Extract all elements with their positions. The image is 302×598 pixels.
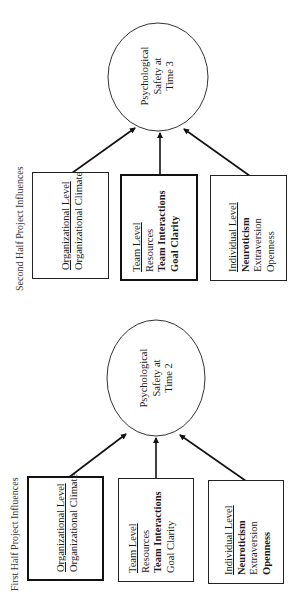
outcome-line: Psychological: [138, 343, 151, 413]
factor-text-team-second-half: Team Level Resources Team Interactions G…: [131, 190, 181, 272]
factor-item: Team Interactions: [152, 491, 165, 573]
factor-item: Resources: [140, 491, 153, 573]
outcome-line: Time 3: [164, 41, 177, 111]
outcome-label-time-2: Psychological Safety at Time 2: [138, 343, 176, 413]
factor-text-individual-first-half: Individual Level Neuroticism Extraversio…: [223, 505, 273, 575]
level-heading: Organizational Level: [55, 474, 68, 572]
factor-item: Extraversion: [248, 505, 261, 575]
factor-item: Extraversion: [252, 202, 265, 272]
outcome-line: Safety at: [152, 41, 165, 111]
level-heading: Team Level: [127, 491, 140, 573]
outcome-label-time-3: Psychological Safety at Time 3: [139, 41, 177, 111]
arrow-org-to-time2: [68, 434, 126, 478]
factor-item: Team Interactions: [156, 190, 169, 272]
factor-item: Openness: [261, 505, 274, 575]
factor-text-team-first-half: Team Level Resources Team Interactions G…: [127, 491, 177, 573]
factor-item: Neuroticism: [236, 505, 249, 575]
factor-item: Neuroticism: [240, 202, 253, 272]
factor-item: Openness: [265, 202, 278, 272]
factor-item: Goal Clarity: [169, 190, 182, 272]
level-heading: Team Level: [131, 190, 144, 272]
factor-item: Organizational Climate: [73, 172, 86, 270]
level-heading: Individual Level: [223, 505, 236, 575]
outcome-line: Time 2: [163, 343, 176, 413]
arrow-org-to-time3: [72, 128, 135, 173]
level-heading: Organizational Level: [60, 172, 73, 270]
factor-item: Resources: [144, 190, 157, 272]
factor-text-individual-second-half: Individual Level Neuroticism Extraversio…: [227, 202, 277, 272]
panel-title-first-half: First Half Project Influences: [9, 477, 20, 591]
factor-text-organizational-first-half: Organizational Level Organizational Clim…: [55, 474, 80, 572]
level-heading: Individual Level: [227, 202, 240, 272]
arrow-individual-to-time3: [184, 129, 250, 176]
panel-title-second-half: Second Half Project Influences: [14, 166, 25, 291]
outcome-line: Safety at: [151, 343, 164, 413]
outcome-line: Psychological: [139, 41, 152, 111]
factor-item: Goal Clarity: [165, 491, 178, 573]
factor-text-organizational-second-half: Organizational Level Organizational Clim…: [60, 172, 85, 270]
arrow-individual-to-time2: [180, 435, 246, 481]
factor-item: Organizational Climate: [68, 474, 81, 572]
